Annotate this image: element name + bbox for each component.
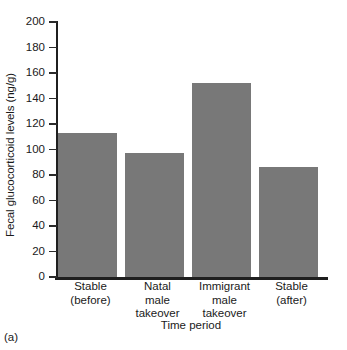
y-tick-80: 80 bbox=[49, 174, 57, 176]
y-tick-label: 60 bbox=[32, 195, 45, 207]
bar bbox=[58, 133, 117, 277]
bar bbox=[125, 153, 184, 277]
y-tick-label: 200 bbox=[26, 16, 45, 28]
y-tick-120: 120 bbox=[49, 123, 57, 125]
y-tick-label: 140 bbox=[26, 93, 45, 105]
x-category-line: Immigrant bbox=[191, 280, 258, 294]
x-axis-title: Time period bbox=[57, 319, 325, 331]
y-tick-label: 120 bbox=[26, 118, 45, 130]
x-category-label: Natalmaletakeover bbox=[124, 280, 191, 321]
x-category-label: Immigrantmaletakeover bbox=[191, 280, 258, 321]
y-tick-20: 20 bbox=[49, 251, 57, 253]
x-category-line: Stable bbox=[57, 280, 124, 294]
bar bbox=[259, 167, 318, 277]
x-category-line: Natal bbox=[124, 280, 191, 294]
y-tick-100: 100 bbox=[49, 149, 57, 151]
y-tick-160: 160 bbox=[49, 72, 57, 74]
y-axis-title: Fecal glucocorticoid levels (ng/g) bbox=[0, 20, 20, 290]
x-category-line: (before) bbox=[57, 294, 124, 308]
y-tick-label: 40 bbox=[32, 220, 45, 232]
x-category-label: Stable(after) bbox=[258, 280, 325, 307]
y-tick-200: 200 bbox=[49, 21, 57, 23]
x-category-line: male bbox=[124, 294, 191, 308]
x-category-label: Stable(before) bbox=[57, 280, 124, 307]
y-tick-label: 100 bbox=[26, 144, 45, 156]
y-tick-label: 80 bbox=[32, 169, 45, 181]
y-tick-label: 160 bbox=[26, 67, 45, 79]
y-tick-140: 140 bbox=[49, 98, 57, 100]
y-tick-label: 180 bbox=[26, 42, 45, 54]
plot-area: 020406080100120140160180200 bbox=[57, 22, 325, 277]
y-tick-60: 60 bbox=[49, 200, 57, 202]
x-category-line: Stable bbox=[258, 280, 325, 294]
x-category-line: (after) bbox=[258, 294, 325, 308]
bar bbox=[192, 83, 251, 277]
figure-panel-a: Fecal glucocorticoid levels (ng/g) 02040… bbox=[0, 0, 347, 350]
panel-label: (a) bbox=[4, 331, 18, 343]
y-tick-label: 0 bbox=[39, 271, 45, 283]
y-tick-label: 20 bbox=[32, 246, 45, 258]
y-tick-0: 0 bbox=[49, 276, 57, 278]
x-category-line: male bbox=[191, 294, 258, 308]
y-tick-180: 180 bbox=[49, 47, 57, 49]
y-tick-40: 40 bbox=[49, 225, 57, 227]
